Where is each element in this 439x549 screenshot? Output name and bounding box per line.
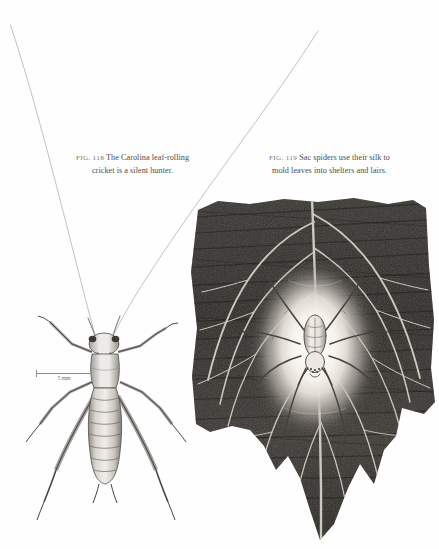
- figure-caption-text-119-line1: Sac spiders use their silk to: [299, 153, 390, 162]
- scale-bar: 5 mm: [36, 370, 92, 386]
- scale-bar-rule: [36, 373, 92, 374]
- cricket-abdomen: [88, 388, 121, 503]
- figure-caption-119: FIG. 119Sac spiders use their silk to mo…: [242, 152, 417, 176]
- figure-number-119: FIG. 119: [269, 154, 297, 162]
- cricket-illustration: [0, 0, 200, 549]
- cricket-thorax: [91, 354, 120, 388]
- scale-bar-label: 5 mm: [36, 375, 92, 381]
- book-page: FIG. 118The Carolina leaf-rolling cricke…: [0, 0, 439, 549]
- sac-spider-illustration: [188, 188, 439, 549]
- figure-caption-text-119-line2: mold leaves into shelters and lairs.: [272, 166, 387, 175]
